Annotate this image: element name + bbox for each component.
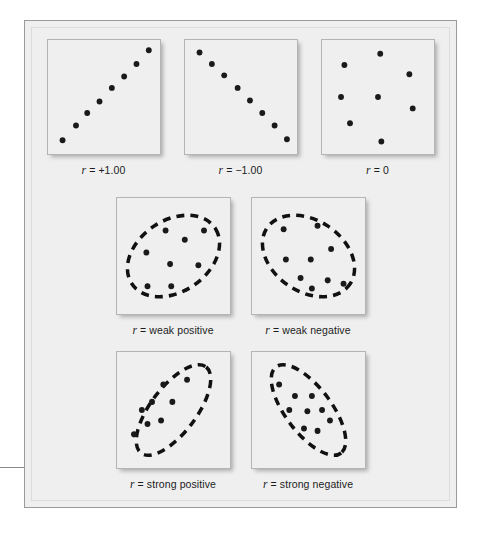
scatterplot-perfect-negative xyxy=(184,39,298,155)
caption-weak-positive: r = weak positive xyxy=(132,324,213,336)
data-point xyxy=(208,61,214,67)
scatter-svg-zero xyxy=(322,40,434,154)
data-point xyxy=(282,256,288,262)
envelope-group xyxy=(117,198,230,313)
panel-cell-strong-positive: r = strong positive xyxy=(106,351,241,490)
caption-value: weak negative xyxy=(282,324,350,336)
data-point xyxy=(308,393,314,399)
scatterplot-perfect-positive xyxy=(47,39,161,155)
data-point xyxy=(121,74,127,80)
data-point xyxy=(271,123,277,129)
dot-group xyxy=(196,50,289,143)
data-point xyxy=(158,417,164,423)
caption-value: −1.00 xyxy=(235,164,262,176)
panel-row-strong: r = strong positive r = strong negative xyxy=(25,351,456,490)
scatterplot-strong-negative xyxy=(251,351,366,469)
data-point xyxy=(297,275,303,281)
data-point xyxy=(131,431,137,437)
panel-cell-perfect-positive: r = +1.00 xyxy=(35,39,172,176)
scatterplot-strong-positive xyxy=(116,351,231,469)
caption-perfect-negative: r = −1.00 xyxy=(219,164,263,176)
caption-value: 0 xyxy=(383,164,389,176)
data-point xyxy=(324,277,330,283)
data-point xyxy=(145,47,151,53)
scatterplot-weak-negative xyxy=(251,197,366,315)
panel-cell-weak-negative: r = weak negative xyxy=(241,197,376,336)
caption-text: = xyxy=(271,478,277,490)
data-point xyxy=(378,138,384,144)
caption-text: = xyxy=(374,164,380,176)
data-point xyxy=(96,99,102,105)
envelope-group xyxy=(122,353,223,467)
data-point xyxy=(184,377,190,383)
dot-group xyxy=(338,51,416,145)
data-point xyxy=(308,285,314,291)
dot-group xyxy=(143,227,207,289)
data-point xyxy=(59,137,65,143)
data-point xyxy=(160,381,166,387)
caption-strong-negative: r = strong negative xyxy=(263,478,353,490)
data-point xyxy=(143,250,149,256)
r-symbol: r xyxy=(263,478,268,490)
caption-value: +1.00 xyxy=(98,164,125,176)
caption-text: = xyxy=(89,164,95,176)
data-point xyxy=(181,237,187,243)
data-point xyxy=(247,97,253,103)
data-point xyxy=(319,407,325,413)
caption-text: = xyxy=(140,324,146,336)
caption-weak-negative: r = weak negative xyxy=(265,324,350,336)
data-point xyxy=(347,120,353,126)
correlation-envelope-ellipse xyxy=(252,198,365,313)
data-point xyxy=(168,283,174,289)
figure-frame: r = +1.00 r = −1.00 xyxy=(24,20,457,508)
panel-row-perfect: r = +1.00 r = −1.00 xyxy=(25,39,456,176)
data-point xyxy=(377,51,383,57)
data-point xyxy=(301,426,307,432)
data-point xyxy=(292,393,298,399)
data-point xyxy=(338,94,344,100)
caption-text: = xyxy=(138,478,144,490)
scatter-svg-perfect-negative xyxy=(185,40,297,154)
data-point xyxy=(284,136,290,142)
panel-row-weak: r = weak positive r = weak negative xyxy=(25,197,456,336)
data-point xyxy=(144,421,150,427)
data-point xyxy=(286,407,292,413)
data-point xyxy=(108,85,114,91)
caption-value: strong positive xyxy=(147,478,216,490)
scatter-svg-weak-positive xyxy=(117,198,230,314)
scatter-svg-perfect-positive xyxy=(48,40,160,154)
dot-group xyxy=(131,377,190,438)
data-point xyxy=(196,50,202,56)
data-point xyxy=(259,110,265,116)
data-point xyxy=(234,85,240,91)
scatter-svg-strong-positive xyxy=(117,352,230,468)
r-symbol: r xyxy=(219,164,224,176)
correlation-envelope-ellipse xyxy=(122,353,223,467)
data-point xyxy=(406,71,412,77)
r-symbol: r xyxy=(130,478,135,490)
data-point xyxy=(162,227,168,233)
data-point xyxy=(304,408,310,414)
caption-perfect-positive: r = +1.00 xyxy=(82,164,126,176)
r-symbol: r xyxy=(265,324,270,336)
panel-cell-weak-positive: r = weak positive xyxy=(106,197,241,336)
r-symbol: r xyxy=(82,164,87,176)
data-point xyxy=(341,62,347,68)
data-point xyxy=(144,283,150,289)
data-point xyxy=(340,281,346,287)
panel-cell-zero: r = 0 xyxy=(309,39,446,176)
data-point xyxy=(201,227,207,233)
dot-group xyxy=(276,381,333,433)
caption-text: = xyxy=(273,324,279,336)
caption-zero: r = 0 xyxy=(366,164,389,176)
caption-strong-positive: r = strong positive xyxy=(130,478,216,490)
data-point xyxy=(276,381,282,387)
data-point xyxy=(84,110,90,116)
data-point xyxy=(133,61,139,67)
data-point xyxy=(314,428,320,434)
panel-cell-perfect-negative: r = −1.00 xyxy=(172,39,309,176)
data-point xyxy=(138,407,144,413)
dot-group xyxy=(59,47,151,143)
data-point xyxy=(307,256,313,262)
scatter-svg-strong-negative xyxy=(252,352,365,468)
